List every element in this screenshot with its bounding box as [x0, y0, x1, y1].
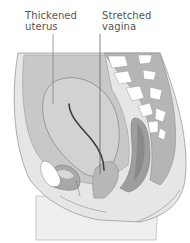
pelvis-cross-section-illustration: [0, 0, 190, 243]
